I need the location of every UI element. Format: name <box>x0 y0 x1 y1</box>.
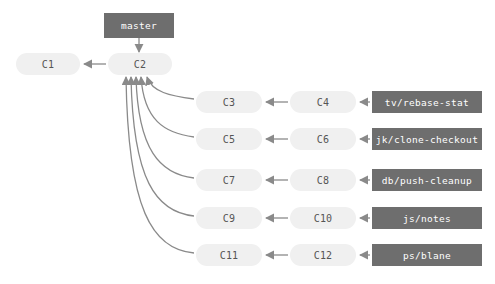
commit-node-c8[interactable]: C8 <box>290 169 356 191</box>
branch-label-text: tv/rebase-stat <box>385 97 469 108</box>
commit-label: C11 <box>220 250 239 261</box>
commit-node-c6[interactable]: C6 <box>290 128 356 150</box>
commit-node-c10[interactable]: C10 <box>290 207 356 229</box>
branch-label-tv-rebase-stat[interactable]: tv/rebase-stat <box>372 91 482 113</box>
commit-label: C2 <box>134 59 146 70</box>
commit-label: C10 <box>314 213 333 224</box>
arrow-c11-to-c2 <box>126 77 194 253</box>
commit-label: C4 <box>317 97 329 108</box>
branch-label-text: ps/blane <box>403 250 451 261</box>
commit-node-c1[interactable]: C1 <box>16 53 80 75</box>
branch-label-text: jk/clone-checkout <box>376 134 478 145</box>
branch-label-js-notes[interactable]: js/notes <box>372 207 482 229</box>
commit-node-c11[interactable]: C11 <box>196 244 262 266</box>
commit-node-c9[interactable]: C9 <box>196 207 262 229</box>
branch-label-jk-clone-checkout[interactable]: jk/clone-checkout <box>372 128 482 150</box>
branch-label-master-text: master <box>121 20 157 31</box>
commit-label: C8 <box>317 175 329 186</box>
arrow-c5-to-c2 <box>141 77 194 137</box>
commit-node-c3[interactable]: C3 <box>196 91 262 113</box>
commit-label: C6 <box>317 134 329 145</box>
branch-label-db-push-cleanup[interactable]: db/push-cleanup <box>372 169 482 191</box>
commit-label: C5 <box>223 134 235 145</box>
commit-label: C1 <box>42 59 54 70</box>
commit-node-c12[interactable]: C12 <box>290 244 356 266</box>
commit-label: C7 <box>223 175 235 186</box>
commit-node-c4[interactable]: C4 <box>290 91 356 113</box>
commit-node-c2[interactable]: C2 <box>108 53 172 75</box>
branch-label-text: js/notes <box>403 213 451 224</box>
arrow-c3-to-c2 <box>147 77 194 99</box>
commit-label: C9 <box>223 213 235 224</box>
commit-label: C3 <box>223 97 235 108</box>
commit-node-c5[interactable]: C5 <box>196 128 262 150</box>
commit-label: C12 <box>314 250 333 261</box>
branch-label-master[interactable]: master <box>104 13 174 38</box>
commit-node-c7[interactable]: C7 <box>196 169 262 191</box>
branch-label-ps-blane[interactable]: ps/blane <box>372 244 482 266</box>
git-branch-diagram: master C1 C2 C3 C4 tv/rebase-stat C5 C6 … <box>0 0 495 284</box>
branch-label-text: db/push-cleanup <box>382 175 472 186</box>
